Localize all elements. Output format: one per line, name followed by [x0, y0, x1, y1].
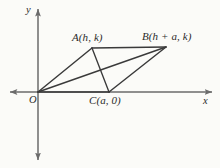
- point-label-a: A(h, k): [72, 32, 103, 43]
- figure-canvas: [0, 0, 220, 168]
- point-label-b: B(h + a, k): [142, 31, 191, 42]
- point-label-c: C(a, 0): [89, 95, 121, 106]
- geometry-figure: A(h, k) B(h + a, k) C(a, 0) O x y: [0, 0, 220, 168]
- diagonal-OB: [38, 47, 166, 92]
- origin-label: O: [29, 95, 37, 106]
- side-AB: [92, 47, 166, 48]
- side-BC: [109, 47, 166, 92]
- y-axis-label: y: [26, 5, 31, 16]
- side-OA: [38, 48, 92, 92]
- x-axis-label: x: [203, 96, 208, 107]
